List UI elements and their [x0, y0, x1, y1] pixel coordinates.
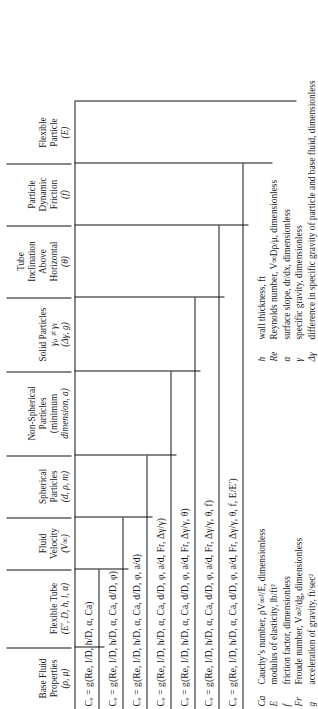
header-line: Spherical: [37, 468, 48, 503]
header-line: Non-Spherical: [26, 386, 37, 440]
column-header-flexible-tube: Flexible Tube (E′, D, h, l, α): [0, 569, 74, 647]
header-line: (E): [59, 126, 70, 138]
column-header-non-spherical-particles: Non-Spherical Particles (minimum dimensi…: [0, 371, 74, 455]
legend-entry: f friction factor, dimensionless: [280, 376, 292, 706]
legend-description: modulus of elasticity, lb/ft²: [267, 376, 279, 684]
column-header-spherical-particles: Spherical Particles (d, ρ, m): [0, 455, 74, 517]
header-line: Properties: [48, 659, 59, 697]
legend-symbol: f: [280, 684, 292, 706]
equation-row: Cₑ = g(Re, l/D, h/D, α, Ca, d/D, φ, a/d): [123, 0, 147, 709]
column-header-tube-inclination: Tube Inclination Above Horizontal (θ): [0, 225, 74, 297]
legend-description: Cauchy’s number, ρV∞²/E, dimensionless: [255, 376, 267, 684]
legend-entry: Δγ difference in specific gravity of par…: [305, 5, 315, 361]
header-line: (Δγ, g): [59, 322, 70, 347]
header-line: Particles: [48, 470, 59, 502]
equation-text: Cₑ = g(Re, l/D, h/D, α, Ca): [82, 601, 93, 709]
equation-row: Cₑ = g(Re, l/D, h/D, α, Ca, d/D, φ, a/d,…: [219, 0, 243, 709]
header-line: Particle: [48, 118, 59, 146]
header-line: (minimum: [48, 393, 59, 432]
legend-symbol: γ: [292, 339, 304, 361]
header-line: Dynamic: [37, 177, 48, 211]
legend-entry: E modulus of elasticity, lb/ft²: [267, 376, 279, 706]
equation-text: Cₑ = g(Re, l/D, h/D, α, Ca, d/D, φ, a/d): [130, 554, 141, 709]
legend-entry: g acceleration of gravity, ft/sec²: [305, 376, 315, 706]
equation-rows: Cₑ = g(Re, l/D, h/D, α, Ca) Cₑ = g(Re, l…: [75, 0, 243, 709]
column-header-particle-dynamic-friction: Particle Dynamic Friction (f): [0, 163, 74, 225]
legend-symbol: Δγ: [305, 339, 315, 361]
header-line: γₚ ≠ γₗ: [48, 322, 59, 345]
equation-text: Cₑ = g(Re, l/D, h/D, α, Ca, d/D, φ, a/d,…: [202, 499, 213, 709]
header-line: (f): [59, 190, 70, 199]
legend-symbol: α: [280, 339, 292, 361]
legend-entry: h wall thickness, ft: [255, 5, 267, 361]
header-line: Friction: [48, 179, 59, 208]
header-line: (d, ρ, m): [59, 470, 70, 501]
header-line: Flexible Tube: [48, 582, 59, 633]
equation-row: Cₑ = g(Re, l/D, h/D, α, Ca, d/D, φ, a/d,…: [195, 0, 219, 709]
header-line: Fluid: [37, 533, 48, 553]
header-line: Inclination: [26, 241, 37, 281]
header-line: Above: [37, 249, 48, 274]
legend-description: specific gravity, dimensionless: [292, 5, 304, 339]
legend-entry: Fr Froude number, V∞²/dg, dimensionless: [292, 376, 304, 706]
header-line: Solid Particles: [37, 307, 48, 361]
legend-entry: γ specific gravity, dimensionless: [292, 5, 304, 361]
header-line: Horizontal: [48, 241, 59, 281]
legend-symbol: Re: [267, 339, 279, 361]
equation-text: Cₑ = g(Re, l/D, h/D, α, Ca, d/D, φ, a/d,…: [178, 508, 189, 709]
equation-text: Cₑ = g(Re, l/D, h/D, α, Ca, d/D, φ, a/d,…: [226, 478, 237, 709]
notation-legend-left: Ca Cauchy’s number, ρV∞²/E, dimensionles…: [255, 376, 315, 706]
equation-row: Cₑ = g(Re, l/D, h/D, α, Ca): [75, 0, 99, 709]
column-header-solid-particles: Solid Particles γₚ ≠ γₗ (Δγ, g): [0, 297, 74, 371]
table-header-row: Base Fluid Properties (ρ, μ) Flexible Tu…: [0, 0, 74, 709]
column-header-base-fluid-properties: Base Fluid Properties (ρ, μ): [0, 647, 74, 709]
legend-description: difference in specific gravity of partic…: [305, 5, 315, 339]
header-line: (ρ, μ): [59, 668, 70, 688]
legend-description: friction factor, dimensionless: [280, 376, 292, 684]
header-line: Particle: [26, 180, 37, 208]
header-line: Velocity: [48, 528, 59, 559]
equation-row: Cₑ = g(Re, l/D, h/D, α, Ca, d/D, φ): [99, 0, 123, 709]
header-line: Flexible: [37, 117, 48, 147]
legend-symbol: Ca: [255, 684, 267, 706]
header-line: (V∞): [59, 534, 70, 553]
variable-table-sheet: Base Fluid Properties (ρ, μ) Flexible Tu…: [0, 0, 315, 709]
legend-entry: α surface slope, dr/dx, dimensionless: [280, 5, 292, 361]
header-line: Tube: [15, 252, 26, 271]
header-line: (E′, D, h, l, α): [59, 582, 70, 633]
rotated-figure-frame: Base Fluid Properties (ρ, μ) Flexible Tu…: [0, 0, 315, 709]
row-rule: [242, 163, 243, 709]
notation-legend-right: h wall thickness, ft Re Reynolds number,…: [255, 5, 315, 361]
header-line: Base Fluid: [37, 658, 48, 698]
legend-description: acceleration of gravity, ft/sec²: [305, 376, 315, 684]
legend-symbol: g: [305, 684, 315, 706]
legend-symbol: E: [267, 684, 279, 706]
equation-row: Cₑ = g(Re, l/D, h/D, α, Ca, d/D, φ, a/d,…: [171, 0, 195, 709]
legend-description: Froude number, V∞²/dg, dimensionless: [292, 376, 304, 684]
header-line: (θ): [59, 256, 70, 267]
column-header-flexible-particle: Flexible Particle (E): [0, 101, 74, 163]
equation-text: Cₑ = g(Re, l/D, h/D, α, Ca, d/D, φ, a/d,…: [154, 517, 165, 709]
header-line: Particles: [37, 397, 48, 429]
legend-description: surface slope, dr/dx, dimensionless: [280, 5, 292, 339]
legend-description: Reynolds number, V∞Dρ/μ, dimensionless: [267, 5, 279, 339]
equation-text: Cₑ = g(Re, l/D, h/D, α, Ca, d/D, φ): [106, 571, 117, 709]
legend-entry: Re Reynolds number, V∞Dρ/μ, dimensionles…: [267, 5, 279, 361]
column-header-fluid-velocity: Fluid Velocity (V∞): [0, 517, 74, 569]
equation-row: Cₑ = g(Re, l/D, h/D, α, Ca, d/D, φ, a/d,…: [147, 0, 171, 709]
legend-description: wall thickness, ft: [255, 5, 267, 339]
legend-symbol: Fr: [292, 684, 304, 706]
legend-symbol: h: [255, 339, 267, 361]
header-line: dimension, a): [59, 388, 70, 439]
legend-entry: Ca Cauchy’s number, ρV∞²/E, dimensionles…: [255, 376, 267, 706]
